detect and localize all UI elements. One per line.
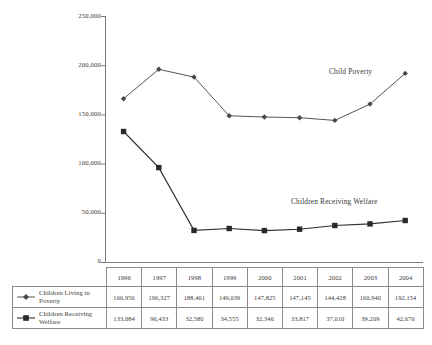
cell-poverty-1998: 188,461 — [177, 287, 212, 308]
poverty-line-path — [124, 69, 406, 120]
table-header-year-2001: 2001 — [282, 268, 317, 287]
cell-poverty-2002: 144,428 — [318, 287, 353, 308]
table-header-year-2003: 2003 — [353, 268, 388, 287]
table-header-year-1998: 1998 — [177, 268, 212, 287]
legend-cell-welfare: Children Receiving Welfare — [13, 308, 107, 329]
cell-poverty-2003: 160,940 — [353, 287, 388, 308]
table-header-year-2002: 2002 — [318, 268, 353, 287]
diamond-marker-icon — [16, 292, 36, 302]
cell-poverty-1996: 166,956 — [107, 287, 142, 308]
cell-welfare-2002: 37,610 — [318, 308, 353, 329]
cell-welfare-1999: 34,555 — [212, 308, 247, 329]
data-table: 1996 1997 1998 1999 2000 2001 2002 2003 … — [12, 267, 424, 329]
table-header-year-1997: 1997 — [142, 268, 177, 287]
cell-poverty-1997: 196,327 — [142, 287, 177, 308]
cell-welfare-2001: 33,817 — [282, 308, 317, 329]
legend-label-poverty: Children Living in Poverty — [39, 289, 104, 304]
welfare-line-path — [124, 132, 406, 231]
cell-welfare-2000: 32,346 — [247, 308, 282, 329]
series-children-receiving-welfare — [121, 129, 408, 233]
annotation-children-receiving-welfare: Children Receiving Welfare — [291, 197, 378, 206]
cell-welfare-2004: 42,676 — [388, 308, 423, 329]
table-row-children-living-in-poverty: Children Living in Poverty 166,956 196,3… — [13, 287, 424, 308]
cell-poverty-1999: 149,039 — [212, 287, 247, 308]
table-header-year-2000: 2000 — [247, 268, 282, 287]
table-header-row: 1996 1997 1998 1999 2000 2001 2002 2003 … — [13, 268, 424, 287]
annotation-child-poverty: Child Poverty — [329, 67, 372, 76]
legend-label-welfare: Children Receiving Welfare — [39, 310, 104, 325]
cell-poverty-2000: 147,825 — [247, 287, 282, 308]
table-header-year-1996: 1996 — [107, 268, 142, 287]
chart-container: 250,000 200,000 150,000 100,000 50,000 0 — [0, 0, 432, 345]
table-header-year-2004: 2004 — [388, 268, 423, 287]
table-row-children-receiving-welfare: Children Receiving Welfare 133,084 96,43… — [13, 308, 424, 329]
cell-welfare-1997: 96,433 — [142, 308, 177, 329]
legend-cell-poverty: Children Living in Poverty — [13, 287, 107, 308]
cell-welfare-1996: 133,084 — [107, 308, 142, 329]
y-axis-ticks — [101, 17, 106, 263]
cell-welfare-1998: 32,580 — [177, 308, 212, 329]
cell-poverty-2004: 192,154 — [388, 287, 423, 308]
cell-welfare-2003: 39,209 — [353, 308, 388, 329]
table-header-year-1999: 1999 — [212, 268, 247, 287]
square-marker-icon — [16, 313, 36, 323]
welfare-markers — [121, 129, 408, 233]
cell-poverty-2001: 147,145 — [282, 287, 317, 308]
table-header-blank-cell — [13, 268, 107, 287]
